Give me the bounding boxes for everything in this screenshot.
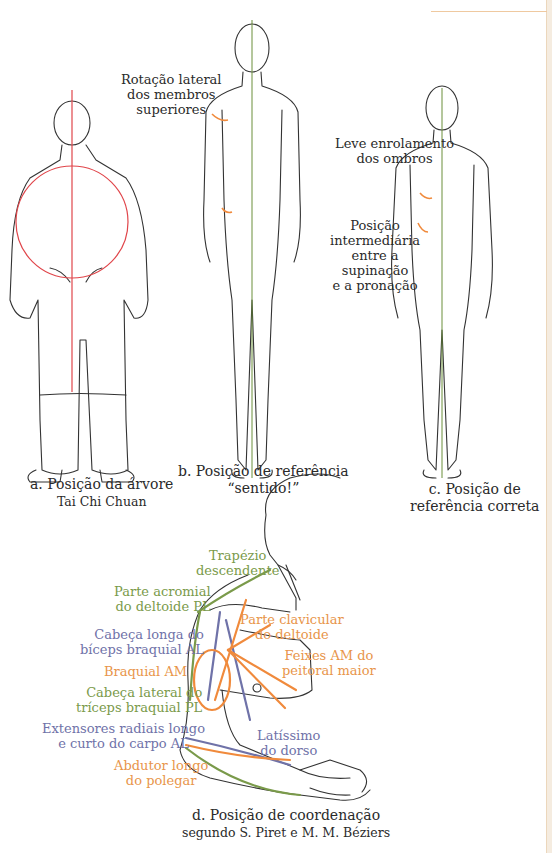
rotation-arrows (212, 114, 432, 232)
figure-c-annotation-forearm: Posição intermediária entre a supinação … (330, 218, 420, 293)
label-triceps: Cabeça lateral do tríceps braquial PL (76, 685, 202, 715)
label-latissimo: Latíssimo do dorso (257, 728, 320, 758)
label-deltoide-acromial: Parte acromial do deltoide PL (114, 584, 211, 614)
figure-b-annotation: Rotação lateral dos membros superiores (121, 72, 222, 117)
label-extensores: Extensores radiais longo e curto do carp… (42, 721, 205, 751)
label-braquial: Braquial AM (104, 664, 187, 679)
label-biceps: Cabeça longa do bíceps braquial AL (80, 627, 204, 657)
label-trapezio: Trapézio descendente (196, 548, 279, 578)
label-peitoral: Feixes AM do peitoral maior (282, 648, 376, 678)
label-deltoide-clavicular: Parte clavicular do deltoide (240, 612, 344, 642)
label-abdutor: Abdutor longo do polegar (114, 758, 208, 788)
figure-c-caption: c. Posição de referência correta (410, 481, 539, 515)
figure-a-body (10, 101, 148, 482)
figure-a-axis (16, 90, 128, 392)
figure-c-annotation-shoulders: Leve enrolamento dos ombros (335, 136, 454, 166)
figure-b-caption: b. Posição de referência “sentido!” (178, 463, 349, 497)
figure-a-caption: a. Posição da árvore Tai Chi Chuan (30, 476, 173, 510)
figure-d-caption: d. Posição de coordenação segundo S. Pir… (182, 807, 390, 841)
